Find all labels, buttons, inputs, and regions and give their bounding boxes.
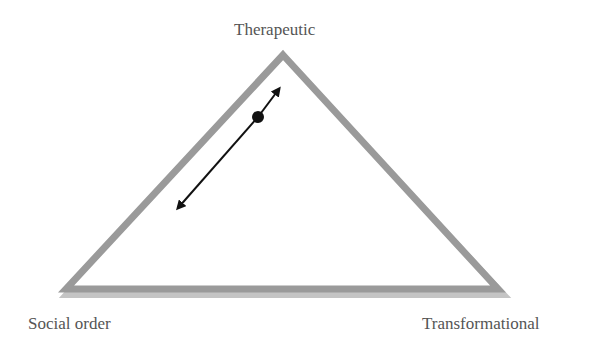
triangle-outline <box>66 55 498 289</box>
vertex-label-therapeutic: Therapeutic <box>234 20 315 40</box>
vertex-label-transformational: Transformational <box>422 314 539 334</box>
vertex-label-social-order: Social order <box>28 314 111 334</box>
triangle-diagram <box>0 0 598 350</box>
position-dot-icon <box>252 111 264 123</box>
